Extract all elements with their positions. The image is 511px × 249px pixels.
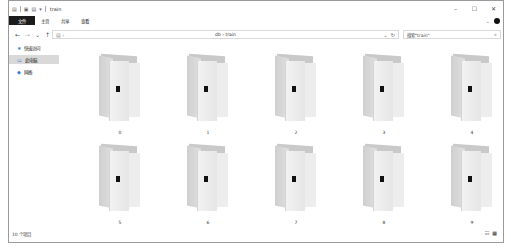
window-controls: – ☐ ✕: [446, 1, 503, 16]
folder-icon: [449, 143, 495, 215]
file-explorer-window: ▤ ▣ ▤ ▾ train – ☐ ✕ 文件 主页 共享 查看 ⌄ ← → ⌄ …: [8, 0, 504, 243]
folder-item[interactable]: 2: [252, 53, 340, 143]
sidebar-item-label: 快速访问: [24, 45, 40, 51]
quick-access-toolbar: ▤ ▣ ▤ ▾: [9, 6, 46, 12]
folder-item[interactable]: 6: [164, 143, 252, 233]
folder-icon: [185, 53, 231, 125]
system-menu-icon[interactable]: ▤: [12, 6, 17, 12]
folder-icon: [361, 143, 407, 215]
address-row: ← → ⌄ ↑ ▤ › db › train ⌄ ↻ 搜索"train" ⌕: [9, 28, 503, 40]
sidebar-item-this-pc[interactable]: ▭ 此电脑: [9, 55, 59, 64]
address-tools: ⌄ ↻: [384, 32, 395, 38]
recent-locations-icon[interactable]: ⌄: [35, 31, 40, 38]
folder-icon: [449, 53, 495, 125]
back-button[interactable]: ←: [15, 31, 20, 38]
tab-view[interactable]: 查看: [75, 16, 95, 25]
sidebar-item-label: 此电脑: [25, 57, 37, 63]
folder-name: 0: [119, 130, 122, 135]
navigation-buttons: ← → ⌄ ↑: [9, 31, 50, 38]
folder-name: 1: [207, 130, 210, 135]
tab-home[interactable]: 主页: [35, 16, 55, 25]
star-icon: ★: [17, 45, 21, 51]
folder-item[interactable]: 3: [340, 53, 428, 143]
search-input[interactable]: 搜索"train" ⌕: [403, 30, 501, 39]
folder-icon: [97, 53, 143, 125]
address-dropdown-icon[interactable]: ⌄: [384, 32, 388, 38]
folder-icon: [273, 53, 319, 125]
breadcrumb[interactable]: db › train: [53, 32, 398, 37]
forward-button[interactable]: →: [25, 31, 30, 38]
tab-share[interactable]: 共享: [55, 16, 75, 25]
divider: [45, 6, 46, 12]
folder-name: 8: [383, 220, 386, 225]
folder-name: 7: [295, 220, 298, 225]
sidebar-item-quick-access[interactable]: ★ 快速访问: [9, 43, 59, 52]
refresh-icon[interactable]: ↻: [391, 32, 395, 38]
window-title: train: [50, 6, 62, 12]
divider: [20, 6, 21, 12]
folder-grid: 0 1 2 3 4 5 6 7 8 9: [76, 53, 511, 233]
view-toggle: ☷ ▦: [485, 230, 497, 236]
search-icon[interactable]: ⌕: [494, 31, 497, 38]
expand-ribbon-icon[interactable]: ⌄: [486, 18, 490, 24]
ribbon-tabs: 文件 主页 共享 查看 ⌄: [9, 16, 503, 25]
navigation-pane: ★ 快速访问 ▭ 此电脑 ◆ 网络: [9, 43, 59, 228]
folder-item[interactable]: 4: [428, 53, 511, 143]
close-button[interactable]: ✕: [484, 1, 503, 16]
folder-icon: [361, 53, 407, 125]
computer-icon: ▭: [17, 57, 22, 63]
sidebar-item-network[interactable]: ◆ 网络: [9, 67, 59, 76]
details-view-icon[interactable]: ☷: [485, 230, 489, 236]
folder-icon: [185, 143, 231, 215]
help-icon[interactable]: [494, 18, 500, 24]
large-icons-view-icon[interactable]: ▦: [492, 230, 497, 236]
up-button[interactable]: ↑: [45, 31, 50, 38]
folder-icon: [273, 143, 319, 215]
minimize-button[interactable]: –: [446, 1, 465, 16]
address-bar[interactable]: ▤ › db › train ⌄ ↻: [52, 30, 399, 39]
network-icon: ◆: [17, 69, 21, 75]
folder-item[interactable]: 1: [164, 53, 252, 143]
search-placeholder: 搜索"train": [407, 32, 430, 38]
file-list: 0 1 2 3 4 5 6 7 8 9: [60, 43, 503, 228]
folder-item[interactable]: 5: [76, 143, 164, 233]
folder-item[interactable]: 9: [428, 143, 511, 233]
folder-name: 5: [119, 220, 122, 225]
folder-name: 9: [471, 220, 474, 225]
folder-icon: [97, 143, 143, 215]
properties-icon[interactable]: ▣: [24, 6, 29, 12]
title-bar: ▤ ▣ ▤ ▾ train – ☐ ✕: [9, 1, 503, 16]
sidebar-item-label: 网络: [24, 69, 32, 75]
new-folder-icon[interactable]: ▤: [31, 6, 36, 12]
folder-name: 3: [383, 130, 386, 135]
folder-name: 2: [295, 130, 298, 135]
folder-name: 6: [207, 220, 210, 225]
tab-file[interactable]: 文件: [9, 16, 35, 25]
folder-item[interactable]: 7: [252, 143, 340, 233]
folder-name: 4: [471, 130, 474, 135]
folder-item[interactable]: 8: [340, 143, 428, 233]
folder-item[interactable]: 0: [76, 53, 164, 143]
ribbon-right-controls: ⌄: [486, 16, 500, 25]
customize-dropdown-icon[interactable]: ▾: [39, 6, 42, 12]
maximize-button[interactable]: ☐: [465, 1, 484, 16]
status-item-count: 10 个项目: [12, 231, 31, 237]
